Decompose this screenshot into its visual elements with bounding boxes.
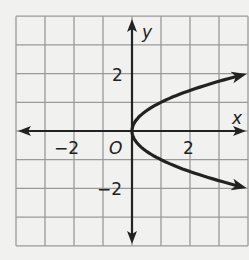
y-tick-label: −2 bbox=[97, 179, 122, 199]
x-tick-label: 2 bbox=[183, 138, 194, 158]
origin-label: O bbox=[109, 138, 122, 158]
x-axis-label: x bbox=[231, 108, 243, 128]
y-tick-label: 2 bbox=[112, 65, 123, 85]
coordinate-plane: yxO−222−2 bbox=[0, 0, 249, 260]
x-tick-label: −2 bbox=[54, 138, 79, 158]
y-axis-label: y bbox=[141, 22, 153, 42]
